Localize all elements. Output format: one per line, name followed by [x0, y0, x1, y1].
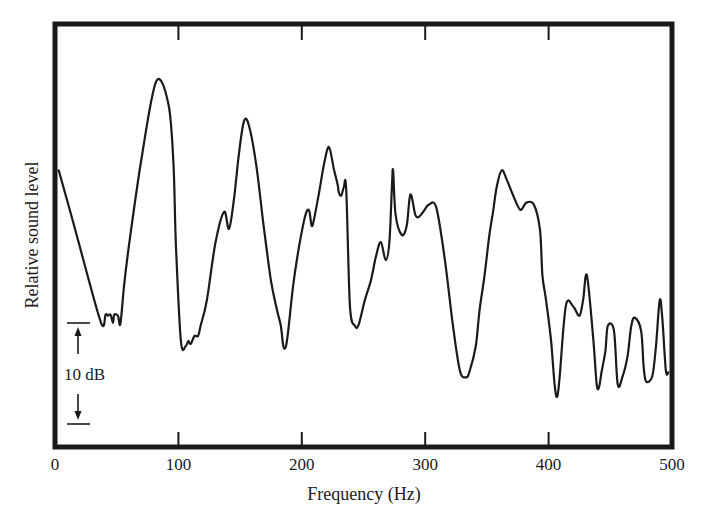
y-axis-title: Relative sound level [22, 162, 42, 309]
scale-bar-label: 10 dB [64, 365, 105, 384]
x-tick-label: 200 [289, 455, 315, 474]
arrow-up-icon [75, 327, 82, 336]
sound-level-curve [59, 79, 669, 397]
x-axis-tick-labels: 0100200300400500 [51, 455, 685, 474]
x-tick-label: 100 [166, 455, 192, 474]
x-axis-ticks [178, 24, 548, 447]
arrow-down-icon [75, 411, 82, 420]
x-tick-label: 500 [659, 455, 685, 474]
x-tick-label: 400 [536, 455, 562, 474]
plot-frame [55, 24, 672, 447]
x-tick-label: 300 [412, 455, 438, 474]
x-tick-label: 0 [51, 455, 60, 474]
sound-spectrum-chart: 0100200300400500 Frequency (Hz) Relative… [0, 0, 714, 531]
x-axis-title: Frequency (Hz) [307, 484, 420, 505]
